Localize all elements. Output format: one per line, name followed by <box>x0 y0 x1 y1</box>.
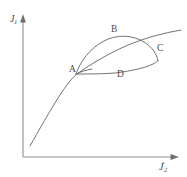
x-axis-arrowhead <box>171 154 180 160</box>
diagram-canvas <box>0 0 187 177</box>
cusp-tail <box>76 69 92 74</box>
x-axis-group <box>23 154 179 160</box>
x-axis-label-subscript: 2 <box>164 166 167 173</box>
y-axis-label: J1 <box>10 14 17 25</box>
figure-container: A B C D J1 J'2 <box>0 0 187 177</box>
point-label-c: C <box>157 44 163 54</box>
point-label-d: D <box>117 70 124 80</box>
point-label-b: B <box>111 25 117 35</box>
y-axis-arrowhead <box>20 14 26 23</box>
point-label-a: A <box>69 65 76 75</box>
y-axis-group <box>20 14 26 157</box>
y-axis-label-subscript: 1 <box>14 18 17 25</box>
x-axis-label: J'2 <box>159 162 167 174</box>
